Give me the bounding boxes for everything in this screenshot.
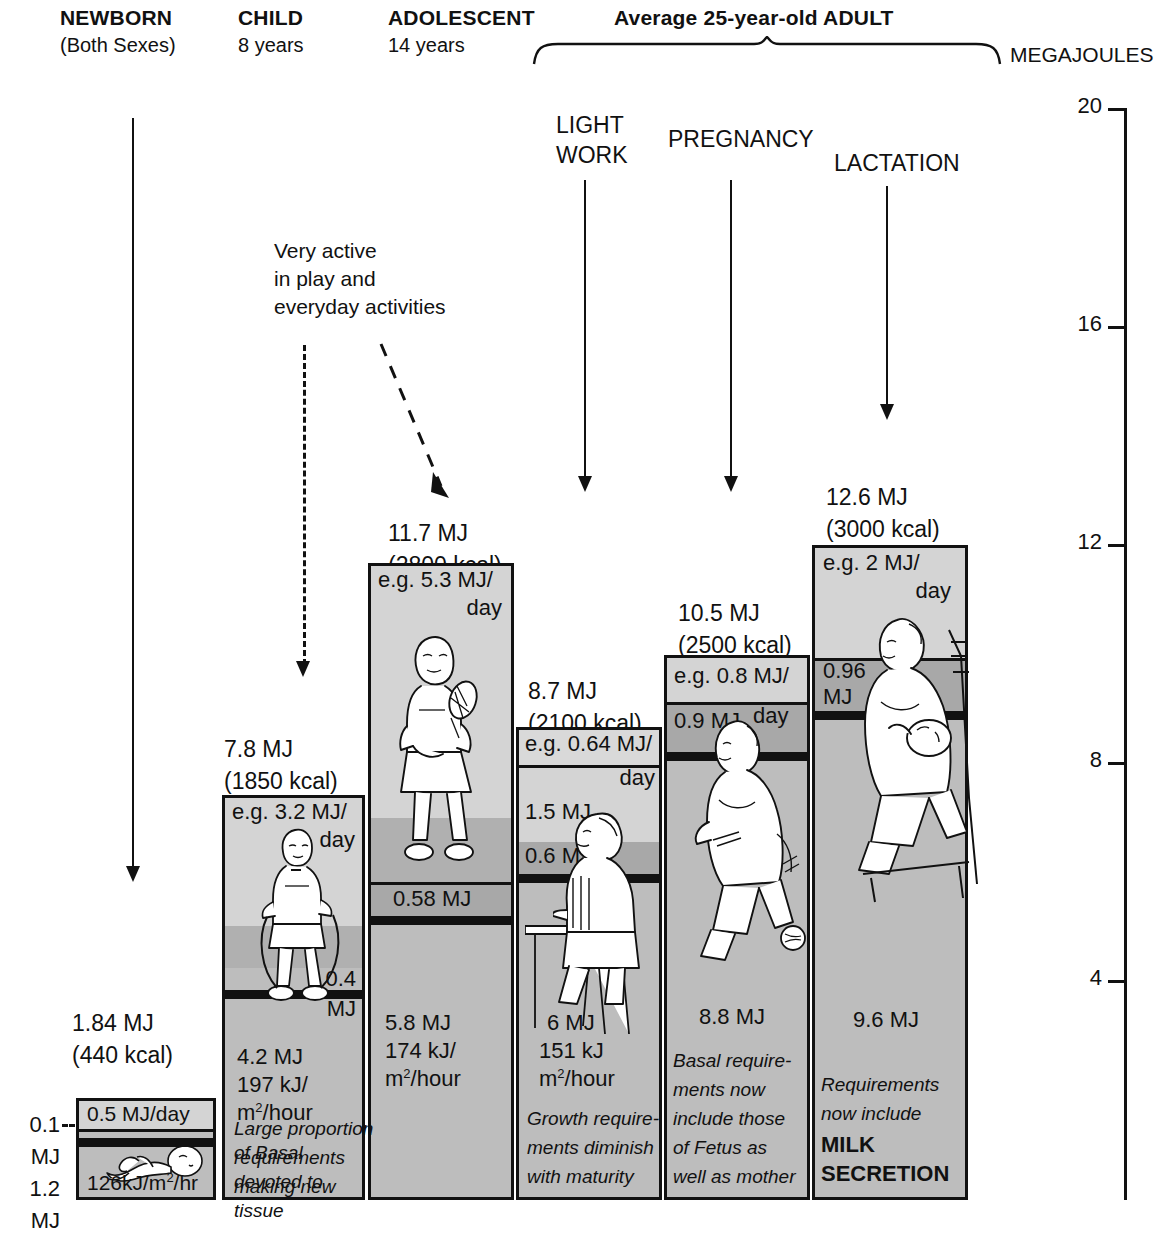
light-work-sda-segment: 0.6 MJ <box>519 842 659 874</box>
newborn-divider-lower <box>79 1138 213 1147</box>
lactation-caption-line1: Requirements <box>821 1073 939 1097</box>
newborn-basal-rate-sup: 2 <box>166 1170 173 1185</box>
lactation-sda-label-line1: 0.96 <box>823 661 866 684</box>
lactation-activity-segment: e.g. 2 MJ/ day <box>815 548 965 658</box>
pregnancy-arrow-line <box>730 180 732 480</box>
pregnancy-caption-line5: well as mother <box>673 1165 796 1189</box>
y-tick-mark-16 <box>1108 326 1126 329</box>
lactation-arrow-head-icon <box>880 404 894 420</box>
y-axis-line <box>1124 108 1127 1200</box>
pregnancy-activity-segment: e.g. 0.8 MJ/ <box>667 658 807 702</box>
group-title-child: CHILD <box>238 6 303 30</box>
light-work-basal-unit-m: m <box>539 1066 557 1091</box>
newborn-arrow-head-icon <box>126 866 140 882</box>
light-work-basal-rate-unit: m2/hour <box>539 1067 615 1092</box>
lactation-sda-segment: 0.96 MJ <box>815 661 965 711</box>
adolescent-basal-segment: 5.8 MJ 174 kJ/ m2/hour <box>371 925 511 1197</box>
light-work-label-line1: LIGHT <box>556 112 624 139</box>
child-basal-mj: 4.2 MJ <box>237 1045 303 1070</box>
light-work-total-mj: 8.7 MJ <box>528 678 597 705</box>
adolescent-basal-unit-tail: /hour <box>411 1066 461 1091</box>
newborn-activity-label: 0.5 MJ/day <box>87 1102 190 1126</box>
lactation-label: LACTATION <box>834 150 960 177</box>
y-tick-label-8: 8 <box>1058 747 1102 773</box>
group-title-adolescent: ADOLESCENT <box>388 6 535 30</box>
pregnancy-caption-line1: Basal require- <box>673 1049 791 1073</box>
child-sda-label-line2: MJ <box>327 999 356 1022</box>
adult-group-brace <box>532 36 1002 70</box>
adolescent-basal-mj: 5.8 MJ <box>385 1011 451 1036</box>
adolescent-activity-label-line1: e.g. 5.3 MJ/ <box>378 568 493 593</box>
adolescent-sda-segment: 0.58 MJ <box>371 885 511 916</box>
lactation-total-kcal: (3000 kcal) <box>826 516 940 543</box>
adolescent-basal-rate: 174 kJ/ <box>385 1039 456 1064</box>
y-tick-label-4: 4 <box>1058 965 1102 991</box>
pregnancy-divider-lower <box>667 752 807 761</box>
adolescent-activity-label-line2: day <box>467 596 502 621</box>
light-work-basal-unit-tail: /hour <box>565 1066 615 1091</box>
y-tick-mark-12 <box>1108 544 1126 547</box>
y-tick-mark-8 <box>1108 762 1126 765</box>
pregnancy-label: PREGNANCY <box>668 126 814 153</box>
child-ground-shading <box>225 926 362 968</box>
newborn-activity-segment: 0.5 MJ/day <box>79 1101 213 1129</box>
adolescent-sda-label: 0.58 MJ <box>393 887 471 912</box>
lactation-total-mj: 12.6 MJ <box>826 484 908 511</box>
newborn-basal-segment: 126kJ/m2/hr <box>79 1147 213 1197</box>
child-total-kcal: (1850 kcal) <box>224 768 338 795</box>
lactation-arrow-line <box>886 186 888 408</box>
bar-adolescent[interactable]: e.g. 5.3 MJ/ day 0.58 MJ 5.8 MJ 174 kJ/ … <box>368 563 514 1200</box>
lactation-caption-bold-line1: MILK <box>821 1131 875 1159</box>
bar-newborn[interactable]: 0.5 MJ/day 126kJ/m2/hr <box>76 1098 216 1200</box>
group-title-adult: Average 25-year-old ADULT <box>614 6 894 30</box>
adolescent-basal-rate-unit: m2/hour <box>385 1067 461 1092</box>
very-active-note-line2: in play and <box>274 266 376 293</box>
child-activity-label-line2: day <box>320 828 355 853</box>
very-active-dashed-line-child <box>303 345 306 665</box>
light-work-divider-lower <box>519 874 659 883</box>
newborn-basal-rate-tail: /hr <box>174 1171 199 1194</box>
child-caption-line3: making new tissue <box>234 1175 374 1223</box>
left-scale-value-1-2: 1.2 <box>8 1176 60 1202</box>
group-sub-adolescent: 14 years <box>388 34 465 57</box>
y-tick-label-12: 12 <box>1058 529 1102 555</box>
pregnancy-arrow-head-icon <box>724 476 738 492</box>
pregnancy-caption-line2: ments now <box>673 1078 765 1102</box>
newborn-basal-rate: 126kJ/m2/hr <box>87 1171 198 1195</box>
light-work-sda-label: 0.6 MJ <box>525 844 591 869</box>
newborn-total-mj: 1.84 MJ <box>72 1010 154 1037</box>
light-work-basal-mj: 6 MJ <box>547 1011 595 1036</box>
group-title-newborn: NEWBORN <box>60 6 172 30</box>
pregnancy-basal-mj: 8.8 MJ <box>699 1005 765 1030</box>
group-sub-child: 8 years <box>238 34 304 57</box>
left-scale-unit-1-2: MJ <box>8 1208 60 1234</box>
light-work-label-line2: WORK <box>556 142 628 169</box>
child-sda-segment: 0.4 <box>225 968 362 990</box>
very-active-dashed-arrow-adolescent <box>375 340 465 514</box>
light-work-extra-label: 1.5 MJ <box>525 800 591 825</box>
very-active-arrow-head-child-icon <box>296 661 310 677</box>
light-work-caption-line1: Growth require- <box>527 1107 659 1131</box>
light-work-caption-line3: with maturity <box>527 1165 634 1189</box>
adolescent-ground-shading <box>371 818 511 882</box>
newborn-arrow-line <box>132 118 134 870</box>
light-work-activity-label-line2: day <box>620 766 655 791</box>
pregnancy-activity-label-line1: e.g. 0.8 MJ/ <box>674 664 789 689</box>
left-scale-unit-0-1: MJ <box>8 1144 60 1170</box>
light-work-activity-label-line1: e.g. 0.64 MJ/ <box>525 732 652 757</box>
lactation-caption-bold-line2: SECRETION <box>821 1160 949 1188</box>
left-scale-value-0-1: 0.1 <box>8 1112 60 1138</box>
adolescent-activity-segment: e.g. 5.3 MJ/ day <box>371 566 511 882</box>
very-active-note-line3: everyday activities <box>274 294 446 321</box>
child-divider <box>225 990 362 999</box>
light-work-caption-line2: ments diminish <box>527 1136 654 1160</box>
child-activity-label-line1: e.g. 3.2 MJ/ <box>232 800 347 825</box>
child-total-mj: 7.8 MJ <box>224 736 293 763</box>
y-tick-mark-20 <box>1108 108 1126 111</box>
lactation-activity-label-line2: day <box>916 579 951 604</box>
newborn-basal-rate-text: 126kJ/m <box>87 1171 166 1194</box>
group-sub-newborn: (Both Sexes) <box>60 34 176 57</box>
light-work-basal-unit-sup: 2 <box>557 1066 564 1081</box>
pregnancy-sda-label: 0.9 MJ <box>674 709 740 734</box>
y-tick-label-16: 16 <box>1058 311 1102 337</box>
